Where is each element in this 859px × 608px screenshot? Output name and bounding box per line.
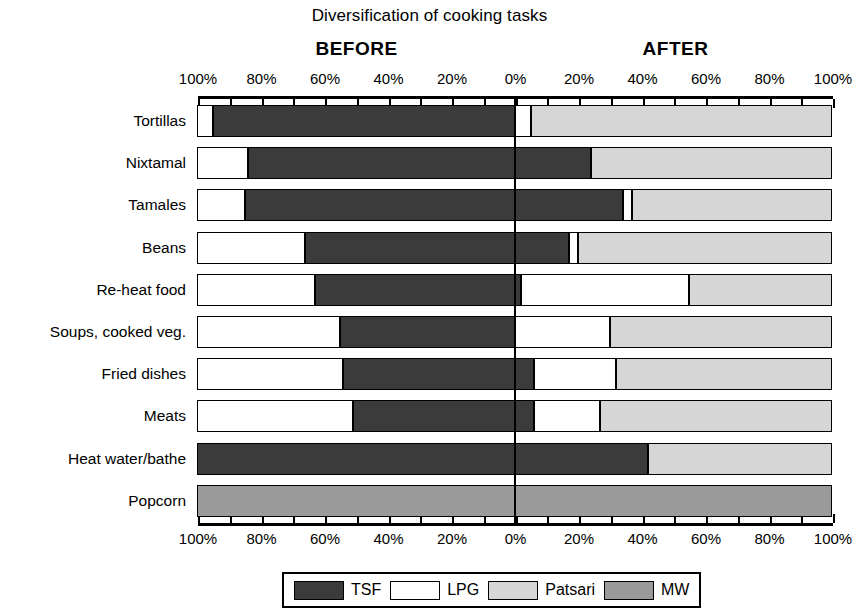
panel-label-before: BEFORE xyxy=(198,38,515,60)
bar-segment-lpg xyxy=(197,358,343,390)
legend-label: MW xyxy=(661,581,689,599)
category-label: Fried dishes xyxy=(0,365,186,383)
bar-half-before xyxy=(198,232,516,264)
x-tick-label: 20% xyxy=(437,530,467,547)
axis-tick-mark xyxy=(833,514,835,523)
bar-half-after xyxy=(516,105,834,137)
bar-segment-lpg xyxy=(197,105,213,137)
bar-segment-patsari xyxy=(616,358,832,390)
bar-half-before xyxy=(198,485,516,517)
bar-half-before xyxy=(198,316,516,348)
bar-half-before xyxy=(198,358,516,390)
bar-segment-tsf xyxy=(340,316,515,348)
category-label: Beans xyxy=(0,239,186,257)
x-tick-label: 0% xyxy=(505,530,527,547)
bar-segment-tsf xyxy=(343,358,514,390)
legend-item-mw: MW xyxy=(604,581,689,600)
bar-segment-lpg xyxy=(515,316,610,348)
bar-half-after xyxy=(516,189,834,221)
category-label: Tortillas xyxy=(0,112,186,130)
x-axis-ticks-top: 100%80%60%40%20%0%20%40%60%80%100% xyxy=(0,70,859,90)
bar-half-before xyxy=(198,189,516,221)
category-label: Popcorn xyxy=(0,492,186,510)
bar-segment-lpg xyxy=(197,189,245,221)
bar-half-before xyxy=(198,105,516,137)
bar-half-after xyxy=(516,443,834,475)
x-tick-label: 40% xyxy=(627,530,657,547)
x-tick-label: 60% xyxy=(691,70,721,87)
category-label: Soups, cooked veg. xyxy=(0,323,186,341)
bar-segment-tsf xyxy=(515,189,623,221)
x-tick-label: 40% xyxy=(373,70,403,87)
x-tick-label: 60% xyxy=(691,530,721,547)
bar-half-before xyxy=(198,147,516,179)
chart-title: Diversification of cooking tasks xyxy=(0,6,859,26)
bar-segment-tsf xyxy=(515,358,534,390)
bar-half-after xyxy=(516,485,834,517)
bar-half-before xyxy=(198,443,516,475)
bar-half-before xyxy=(198,400,516,432)
bar-segment-patsari xyxy=(632,189,832,221)
x-tick-label: 20% xyxy=(564,530,594,547)
bar-segment-tsf xyxy=(248,147,515,179)
bar-segment-patsari xyxy=(578,232,832,264)
chart-legend: TSFLPGPatsariMW xyxy=(282,572,701,608)
bar-half-after xyxy=(516,400,834,432)
legend-swatch-tsf xyxy=(294,581,344,600)
bar-segment-lpg xyxy=(534,400,601,432)
x-tick-label: 40% xyxy=(627,70,657,87)
x-tick-label: 80% xyxy=(246,70,276,87)
bar-half-after xyxy=(516,358,834,390)
bar-segment-patsari xyxy=(600,400,832,432)
x-tick-label: 80% xyxy=(754,530,784,547)
bar-segment-tsf xyxy=(245,189,515,221)
bar-segment-lpg xyxy=(197,316,340,348)
category-label: Heat water/bathe xyxy=(0,450,186,468)
category-label: Tamales xyxy=(0,196,186,214)
bar-segment-lpg xyxy=(197,400,353,432)
bar-segment-patsari xyxy=(591,147,832,179)
x-axis-ticks-bottom: 100%80%60%40%20%0%20%40%60%80%100% xyxy=(0,530,859,550)
bar-segment-tsf xyxy=(515,232,569,264)
x-tick-label: 80% xyxy=(754,70,784,87)
x-tick-label: 100% xyxy=(814,70,852,87)
x-tick-label: 20% xyxy=(437,70,467,87)
legend-label: TSF xyxy=(351,581,381,599)
category-label: Nixtamal xyxy=(0,154,186,172)
bar-segment-mw xyxy=(515,485,833,517)
axis-tick-mark xyxy=(833,99,835,108)
bar-half-after xyxy=(516,147,834,179)
x-tick-label: 40% xyxy=(373,530,403,547)
x-tick-label: 100% xyxy=(179,70,217,87)
x-tick-label: 0% xyxy=(505,70,527,87)
bar-segment-lpg xyxy=(197,274,314,306)
bar-segment-tsf xyxy=(213,105,515,137)
x-tick-label: 100% xyxy=(814,530,852,547)
x-tick-label: 80% xyxy=(246,530,276,547)
bar-segment-tsf xyxy=(305,232,515,264)
bar-segment-patsari xyxy=(648,443,832,475)
bar-segment-lpg xyxy=(197,232,305,264)
zero-axis-line xyxy=(514,96,516,526)
bar-half-after xyxy=(516,274,834,306)
bar-segment-lpg xyxy=(623,189,633,221)
legend-label: Patsari xyxy=(545,581,595,599)
bar-segment-tsf xyxy=(315,274,515,306)
bar-segment-tsf xyxy=(515,443,648,475)
bar-half-before xyxy=(198,274,516,306)
bar-segment-lpg xyxy=(515,105,531,137)
legend-swatch-lpg xyxy=(390,581,440,600)
legend-swatch-patsari xyxy=(488,581,538,600)
legend-item-patsari: Patsari xyxy=(488,581,595,600)
legend-item-lpg: LPG xyxy=(390,581,479,600)
bar-segment-patsari xyxy=(689,274,832,306)
legend-swatch-mw xyxy=(604,581,654,600)
legend-label: LPG xyxy=(447,581,479,599)
bar-half-after xyxy=(516,316,834,348)
x-tick-label: 100% xyxy=(179,530,217,547)
bar-segment-tsf xyxy=(197,443,515,475)
panel-label-after: AFTER xyxy=(517,38,834,60)
bar-segment-tsf xyxy=(353,400,515,432)
bar-segment-tsf xyxy=(515,400,534,432)
